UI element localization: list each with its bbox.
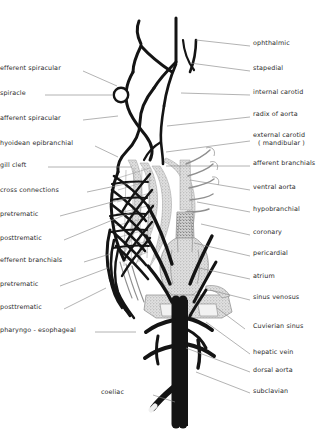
label-text: pharyngo - esophageal bbox=[0, 326, 76, 334]
label-text: stapedial bbox=[253, 64, 283, 72]
label-radix-of-aorta: radix of aorta bbox=[253, 111, 298, 119]
label-text: posttrematic bbox=[0, 234, 42, 242]
leader-hepatic-vein bbox=[206, 322, 250, 354]
label-text: ventral aorta bbox=[253, 183, 296, 191]
label-text: efferent branchials bbox=[0, 256, 62, 264]
label-pharyngo-esophageal: pharyngo - esophageal bbox=[0, 327, 10, 335]
label-text: ophthalmic bbox=[253, 39, 290, 47]
label-text: Cuvierian sinus bbox=[253, 322, 303, 330]
label-text: pericardial bbox=[253, 249, 288, 257]
label-cuvierian-sinus: Cuvierian sinus bbox=[253, 323, 303, 331]
label-subtext: ( mandibular ) bbox=[253, 140, 305, 148]
label-hyoidean-epibranchial: hyoidean epibranchial bbox=[0, 140, 10, 148]
label-text: hepatic vein bbox=[253, 348, 294, 356]
label-coeliac: coeliac bbox=[0, 389, 124, 397]
label-internal-carotid: internal carotid bbox=[253, 89, 303, 97]
label-cross-connections: cross connections bbox=[0, 187, 10, 195]
label-efferent-spiracular: efferent spiracular bbox=[0, 65, 10, 73]
label-pericardial: pericardial bbox=[253, 250, 288, 258]
label-pretrematic-2: pretrematic bbox=[0, 281, 10, 289]
label-efferent-branchials: efferent branchials bbox=[0, 257, 10, 265]
label-text: afferent branchials bbox=[253, 159, 315, 167]
label-spiracle: spiracle bbox=[0, 90, 10, 98]
spiracle-marker bbox=[114, 88, 128, 102]
label-text: hyoidean epibranchial bbox=[0, 139, 73, 147]
label-posttrematic-2: posttrematic bbox=[0, 304, 10, 312]
leader-afferent-spiracular bbox=[83, 116, 118, 120]
label-gill-cleft: gill cleft bbox=[0, 162, 10, 170]
label-text: spiracle bbox=[0, 89, 26, 97]
label-text: sinus venosus bbox=[253, 293, 299, 301]
leader-coronary bbox=[201, 224, 250, 235]
label-text: cross connections bbox=[0, 186, 59, 194]
label-stapedial: stapedial bbox=[253, 65, 283, 73]
label-text: afferent spiracular bbox=[0, 114, 61, 122]
leader-ophthalmic bbox=[196, 40, 250, 46]
label-text: gill cleft bbox=[0, 161, 26, 169]
label-sinus-venosus: sinus venosus bbox=[253, 294, 299, 302]
label-posttrematic-1: posttrematic bbox=[0, 235, 10, 243]
leader-efferent-spiracular bbox=[83, 71, 117, 86]
leader-external-carotid bbox=[166, 141, 250, 152]
leader-internal-carotid bbox=[181, 93, 250, 95]
label-text: pretrematic bbox=[0, 280, 38, 288]
label-text: efferent spiracular bbox=[0, 64, 61, 72]
leader-cross-connections bbox=[87, 183, 130, 192]
label-text: external carotid bbox=[253, 131, 305, 139]
label-text: hypobranchial bbox=[253, 205, 300, 213]
leader-lines-group bbox=[45, 40, 250, 402]
label-text: dorsal aorta bbox=[253, 366, 293, 374]
label-afferent-spiracular: afferent spiracular bbox=[0, 115, 10, 123]
label-coronary: coronary bbox=[253, 229, 282, 237]
label-text: internal carotid bbox=[253, 88, 303, 96]
label-afferent-branchials: afferent branchials bbox=[253, 160, 315, 168]
label-text: atrium bbox=[253, 272, 275, 280]
label-text: pretrematic bbox=[0, 210, 38, 218]
label-text: subclavian bbox=[253, 387, 288, 395]
label-text: radix of aorta bbox=[253, 110, 298, 118]
label-hypobranchial: hypobranchial bbox=[253, 206, 300, 214]
leader-subclavian bbox=[196, 372, 250, 393]
leader-pretrematic-2 bbox=[60, 268, 108, 286]
leader-stapedial bbox=[190, 63, 250, 71]
label-dorsal-aorta: dorsal aorta bbox=[253, 367, 293, 375]
label-external-carotid: external carotid( mandibular ) bbox=[253, 132, 305, 147]
label-ventral-aorta: ventral aorta bbox=[253, 184, 296, 192]
label-subclavian: subclavian bbox=[253, 388, 288, 396]
leader-radix-of-aorta bbox=[167, 117, 250, 126]
label-pretrematic-1: pretrematic bbox=[0, 211, 10, 219]
leader-hyoidean-epibranchial bbox=[95, 146, 118, 157]
leader-posttrematic-2 bbox=[64, 288, 106, 309]
label-atrium: atrium bbox=[253, 273, 275, 281]
leader-dorsal-aorta bbox=[186, 348, 250, 372]
label-text: posttrematic bbox=[0, 303, 42, 311]
label-text: coronary bbox=[253, 228, 282, 236]
label-ophthalmic: ophthalmic bbox=[253, 40, 290, 48]
label-text: coeliac bbox=[101, 388, 124, 396]
anatomical-figure: efferent spiracularspiracleafferent spir… bbox=[0, 0, 331, 434]
label-hepatic-vein: hepatic vein bbox=[253, 349, 294, 357]
